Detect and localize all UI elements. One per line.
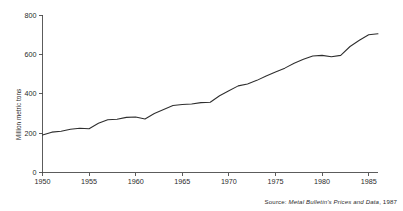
x-tick-label: 1965 (174, 177, 190, 186)
chart-figure: Million metric tons 0200400600800 195019… (0, 0, 403, 211)
x-tick-label: 1975 (267, 177, 283, 186)
y-tick-label: 0 (33, 168, 37, 177)
x-tick-label: 1970 (221, 177, 237, 186)
source-suffix: , 1987 (379, 198, 397, 205)
source-prefix: Source: (265, 198, 287, 205)
x-axis-ticks: 19501955196019651970197519801985 (35, 173, 377, 187)
x-tick-label: 1960 (128, 177, 144, 186)
y-tick-label: 600 (25, 50, 37, 59)
x-tick-label: 1950 (35, 177, 51, 186)
y-tick-label: 200 (25, 129, 37, 138)
x-tick-label: 1985 (361, 177, 377, 186)
y-axis-ticks: 0200400600800 (25, 11, 43, 178)
y-tick-label: 800 (25, 11, 37, 20)
x-tick-label: 1980 (314, 177, 330, 186)
x-tick-label: 1955 (81, 177, 97, 186)
y-tick-label: 400 (25, 89, 37, 98)
data-series-line (43, 34, 379, 135)
source-title: Metal Bulletin's Prices and Data (289, 198, 380, 205)
y-axis-title: Million metric tons (15, 89, 22, 140)
source-note: Source: Metal Bulletin's Prices and Data… (265, 198, 397, 205)
line-chart: Million metric tons 0200400600800 195019… (0, 0, 403, 211)
